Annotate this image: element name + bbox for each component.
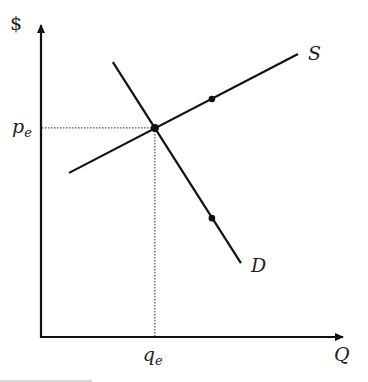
supply-demand-diagram: $ Q S D pe qe [0, 0, 368, 382]
p-subscript: e [24, 125, 32, 140]
equilibrium-quantity-label: qe [143, 343, 163, 368]
equilibrium-point [151, 124, 159, 132]
supply-marked-point [209, 96, 216, 103]
demand-marked-point [209, 215, 216, 222]
demand-label: D [250, 254, 266, 276]
q-subscript: e [155, 353, 163, 368]
x-axis-label: Q [334, 343, 350, 365]
supply-curve [69, 54, 298, 173]
q-symbol: q [143, 343, 155, 365]
p-symbol: p [12, 115, 24, 137]
demand-curve [113, 62, 241, 263]
supply-label: S [308, 42, 321, 64]
y-axis-label: $ [10, 12, 22, 34]
equilibrium-price-label: pe [12, 115, 32, 140]
